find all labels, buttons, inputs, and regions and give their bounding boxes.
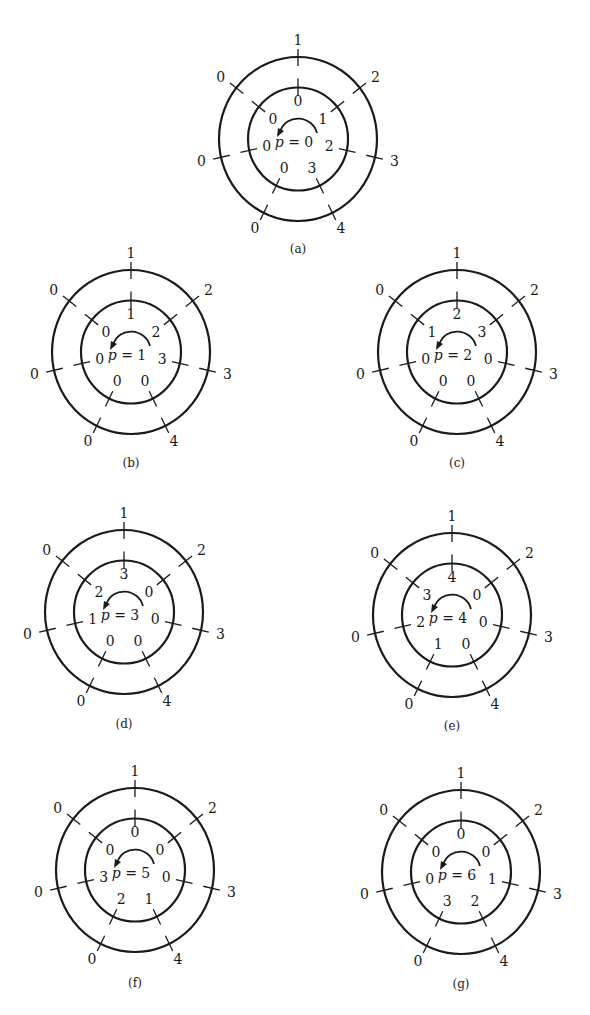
outer-tick (63, 296, 76, 307)
inner-sector-value: 0 (145, 584, 154, 600)
inner-sector-value: 0 (466, 373, 475, 389)
outer-sector-label: 2 (371, 69, 380, 85)
diagram-caption: (f) (128, 976, 142, 990)
inner-sector-value: 2 (117, 891, 126, 907)
position-label: p = 4 (429, 610, 468, 626)
position-label: p = 6 (438, 867, 477, 883)
inner-sector-value: 0 (106, 633, 115, 649)
position-label: p = 0 (275, 134, 314, 150)
outer-tick (67, 814, 80, 825)
outer-tick (353, 83, 366, 94)
outer-sector-label: 4 (495, 433, 504, 449)
rotating-disk-figure: 10213243000000p = 0(a)11223340000000p = … (0, 0, 590, 1015)
outer-sector-label: 4 (173, 951, 182, 967)
outer-sector-label: 0 (370, 545, 379, 561)
inner-sector-value: 0 (151, 611, 160, 627)
inner-sector-value: 0 (280, 160, 289, 176)
outer-tick (186, 296, 199, 307)
outer-sector-label: 1 (294, 32, 303, 48)
p-value: 2 (463, 347, 472, 363)
inner-sector-value: 0 (479, 614, 488, 630)
outer-tick (190, 814, 203, 825)
outer-tick (389, 296, 402, 307)
diagram-c: 12233040000001p = 2(c) (356, 245, 558, 470)
p-equals: = (443, 347, 464, 363)
inner-sector-value: 3 (99, 869, 108, 885)
inner-sector-value: 0 (269, 111, 278, 127)
inner-sector-value: 0 (294, 93, 303, 109)
inner-sector-value: 4 (448, 569, 457, 585)
inner-sector-value: 0 (484, 351, 493, 367)
position-label: p = 5 (112, 865, 151, 881)
inner-sector-value: 3 (423, 587, 432, 603)
outer-sector-label: 1 (448, 508, 457, 524)
diagram-g: 10203142030000p = 6(g) (360, 765, 562, 991)
p-variable: p (429, 610, 438, 626)
diagram-caption: (b) (122, 456, 139, 470)
p-value: 5 (141, 865, 150, 881)
inner-sector-value: 0 (439, 373, 448, 389)
p-equals: = (110, 607, 131, 623)
inner-sector-value: 3 (120, 566, 129, 582)
p-equals: = (438, 610, 459, 626)
outer-sector-label: 3 (216, 626, 225, 642)
inner-sector-value: 0 (432, 844, 441, 860)
outer-sector-label: 4 (336, 220, 345, 236)
outer-sector-label: 3 (544, 629, 553, 645)
inner-sector-value: 2 (470, 893, 479, 909)
p-variable: p (108, 347, 117, 363)
p-variable: p (112, 865, 121, 881)
position-label: p = 1 (108, 347, 147, 363)
inner-sector-value: 0 (162, 869, 171, 885)
outer-tick (393, 816, 406, 827)
outer-sector-label: 1 (457, 765, 466, 781)
rotation-arrow (106, 592, 143, 606)
position-label: p = 3 (101, 607, 140, 623)
outer-sector-label: 2 (204, 282, 213, 298)
outer-sector-label: 0 (42, 542, 51, 558)
outer-sector-label: 0 (351, 629, 360, 645)
outer-sector-label: 2 (525, 545, 534, 561)
outer-sector-label: 2 (534, 802, 543, 818)
diagram-caption: (d) (115, 717, 132, 731)
diagram-caption: (c) (449, 456, 465, 470)
rotation-arrow (443, 852, 480, 866)
outer-tick (516, 816, 529, 827)
outer-sector-label: 0 (375, 282, 384, 298)
outer-sector-label: 0 (379, 802, 388, 818)
outer-sector-label: 0 (84, 433, 93, 449)
inner-sector-value: 3 (443, 893, 452, 909)
outer-sector-label: 4 (490, 696, 499, 712)
diagram-caption: (e) (444, 719, 460, 733)
inner-sector-value: 0 (131, 824, 140, 840)
inner-sector-value: 2 (325, 138, 334, 154)
outer-sector-label: 0 (53, 800, 62, 816)
p-equals: = (121, 865, 142, 881)
outer-sector-label: 2 (530, 282, 539, 298)
rotation-arrow (113, 332, 150, 346)
diagram-caption: (a) (290, 242, 307, 256)
outer-sector-label: 0 (414, 953, 423, 969)
p-variable: p (275, 134, 284, 150)
p-variable: p (101, 607, 110, 623)
inner-sector-value: 3 (307, 160, 316, 176)
inner-sector-value: 2 (416, 614, 425, 630)
outer-sector-label: 3 (223, 366, 232, 382)
outer-sector-label: 0 (23, 626, 32, 642)
rotation-arrow (439, 332, 476, 346)
inner-sector-value: 0 (457, 826, 466, 842)
rotation-arrow (280, 119, 317, 133)
p-equals: = (284, 134, 305, 150)
inner-sector-value: 1 (434, 636, 443, 652)
outer-sector-label: 3 (390, 153, 399, 169)
outer-sector-label: 2 (197, 542, 206, 558)
inner-sector-value: 0 (113, 373, 122, 389)
p-equals: = (447, 867, 468, 883)
inner-sector-value: 0 (102, 324, 111, 340)
outer-sector-label: 2 (208, 800, 217, 816)
outer-sector-label: 4 (499, 953, 508, 969)
p-value: 0 (304, 134, 313, 150)
outer-tick (384, 559, 397, 570)
outer-sector-label: 0 (356, 366, 365, 382)
outer-sector-label: 3 (553, 886, 562, 902)
